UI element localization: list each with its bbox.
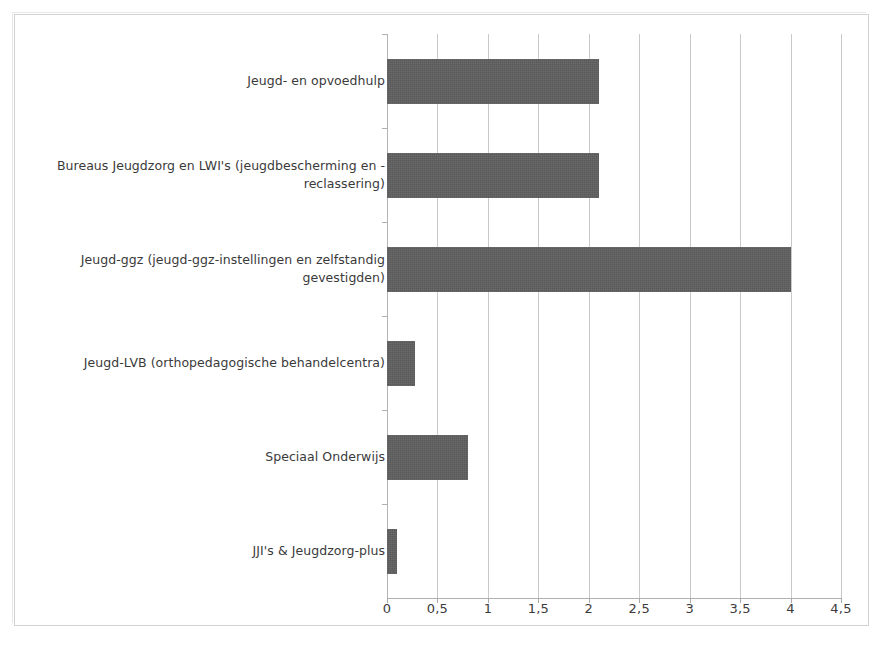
bar: [387, 153, 599, 198]
category-label: Speciaal Onderwijs: [35, 448, 385, 466]
y-tick: [382, 128, 387, 129]
y-tick: [382, 504, 387, 505]
bar: [387, 247, 791, 292]
bar: [387, 341, 415, 386]
bar: [387, 435, 468, 480]
category-label: Jeugd- en opvoedhulp: [35, 72, 385, 90]
y-tick: [382, 410, 387, 411]
category-label: Jeugd-ggz (jeugd-ggz-instellingen en zel…: [35, 251, 385, 287]
category-label: JJI's & Jeugdzorg-plus: [35, 542, 385, 560]
y-tick: [382, 34, 387, 35]
gridline-4,5: [841, 34, 842, 598]
chart-frame: Jeugd- en opvoedhulpBureaus Jeugdzorg en…: [14, 14, 869, 626]
y-tick: [382, 316, 387, 317]
x-tick-label: 4,5: [830, 601, 851, 616]
category-label: Jeugd-LVB (orthopedagogische behandelcen…: [35, 354, 385, 372]
x-tick-label: 4: [786, 601, 794, 616]
bar-series: [387, 34, 841, 598]
x-tick-label: 1: [484, 601, 492, 616]
chart-page: Jeugd- en opvoedhulpBureaus Jeugdzorg en…: [0, 0, 883, 648]
y-tick: [382, 222, 387, 223]
x-axis-line: [387, 598, 841, 599]
bar: [387, 59, 599, 104]
x-tick-label: 2,5: [629, 601, 650, 616]
x-tick-label: 1,5: [528, 601, 549, 616]
x-tick-label: 0,5: [427, 601, 448, 616]
x-tick-label: 0: [383, 601, 391, 616]
x-tick-label: 2: [585, 601, 593, 616]
category-label: Bureaus Jeugdzorg en LWI's (jeugdbescher…: [35, 157, 385, 193]
category-axis-labels: Jeugd- en opvoedhulpBureaus Jeugdzorg en…: [35, 34, 385, 598]
x-tick-label: 3,5: [729, 601, 750, 616]
plot-area: [387, 34, 841, 598]
x-tick-label: 3: [685, 601, 693, 616]
x-axis-tick-labels: 00,511,522,533,544,5: [387, 601, 841, 621]
bar: [387, 529, 397, 574]
